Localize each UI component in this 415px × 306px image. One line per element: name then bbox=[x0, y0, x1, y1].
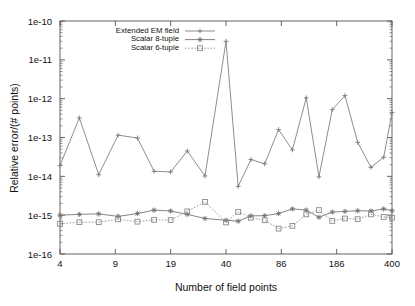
y-axis-title: Relative error/(# points) bbox=[8, 83, 20, 193]
x-tick-label: 400 bbox=[384, 258, 400, 269]
y-tick-label: 1e-12 bbox=[28, 93, 52, 104]
y-tick-label: 1e-13 bbox=[28, 132, 52, 143]
chart-legend: Extended EM fieldScalar 8-tupleScalar 6-… bbox=[116, 26, 215, 52]
data-series-group bbox=[57, 39, 394, 231]
chart-canvas: 1e-161e-151e-141e-131e-121e-111e-10 4919… bbox=[0, 0, 415, 306]
legend-label-3: Scalar 6-tuple bbox=[131, 43, 179, 52]
x-tick-label: 186 bbox=[329, 258, 345, 269]
x-tick-label: 40 bbox=[221, 258, 232, 269]
chart-figure: 1e-161e-151e-141e-131e-121e-111e-10 4919… bbox=[0, 0, 415, 306]
y-tick-label: 1e-14 bbox=[28, 171, 52, 182]
y-tick-label: 1e-10 bbox=[28, 16, 52, 27]
x-tick-label: 86 bbox=[276, 258, 287, 269]
y-tick-label: 1e-11 bbox=[28, 54, 52, 65]
series-1 bbox=[58, 39, 395, 189]
y-tick-label: 1e-16 bbox=[28, 249, 52, 260]
x-tick-label: 4 bbox=[57, 258, 62, 269]
x-tick-label: 9 bbox=[113, 258, 118, 269]
y-axis-ticks: 1e-161e-151e-141e-131e-121e-111e-10 bbox=[28, 16, 392, 260]
x-tick-label: 19 bbox=[165, 258, 176, 269]
x-axis-ticks: 49194086186400 bbox=[57, 21, 400, 269]
y-tick-label: 1e-15 bbox=[28, 210, 52, 221]
x-axis-title: Number of field points bbox=[175, 281, 277, 293]
